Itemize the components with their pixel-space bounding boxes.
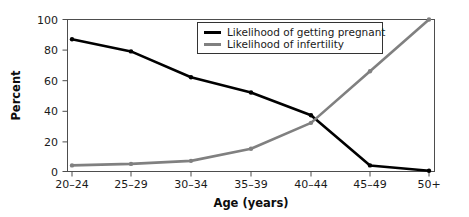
xtick-label-20-24: 20–24 (55, 178, 89, 191)
xtick-label-40-44: 40–44 (294, 178, 328, 191)
y-axis-title: Percent (9, 70, 23, 121)
ytick-label-100: 100 (37, 14, 58, 27)
data-point (70, 163, 74, 167)
x-axis-ticks (72, 172, 429, 177)
data-point (129, 162, 133, 166)
xtick-label-45-49: 45–49 (353, 178, 387, 191)
data-point (189, 159, 193, 163)
xtick-label-50plus: 50+ (417, 178, 440, 191)
y-axis-ticks (63, 20, 68, 172)
x-axis-title: Age (years) (213, 196, 288, 210)
line-chart: 100 80 60 40 20 0 Percent 20–24 25–29 30… (0, 0, 469, 217)
data-point (368, 163, 372, 167)
ytick-label-60: 60 (44, 75, 58, 88)
ytick-label-20: 20 (44, 136, 58, 149)
data-point (427, 17, 431, 21)
data-point (309, 121, 313, 125)
x-axis-labels: 20–24 25–29 30–34 35–39 40–44 45–49 50+ (55, 178, 440, 191)
ytick-label-80: 80 (44, 44, 58, 57)
chart-legend: Likelihood of getting pregnant Likelihoo… (198, 23, 386, 54)
data-point (189, 75, 193, 79)
legend-label-infertility: Likelihood of infertility (227, 38, 344, 50)
data-point (249, 90, 253, 94)
y-axis-labels: 100 80 60 40 20 0 (37, 14, 58, 179)
chart-container: 100 80 60 40 20 0 Percent 20–24 25–29 30… (0, 0, 469, 217)
ytick-label-0: 0 (51, 166, 58, 179)
ytick-label-40: 40 (44, 105, 58, 118)
data-point (309, 113, 313, 117)
data-point (368, 69, 372, 73)
data-point (129, 49, 133, 53)
data-point (427, 169, 431, 173)
data-point (70, 37, 74, 41)
xtick-label-25-29: 25–29 (114, 178, 148, 191)
data-point (249, 147, 253, 151)
xtick-label-35-39: 35–39 (234, 178, 268, 191)
xtick-label-30-34: 30–34 (174, 178, 208, 191)
legend-label-pregnant: Likelihood of getting pregnant (227, 26, 385, 38)
